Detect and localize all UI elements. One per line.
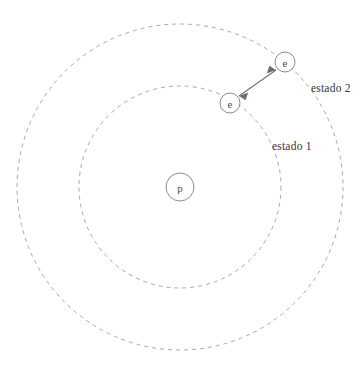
electron-label: e — [283, 57, 288, 69]
electron-outer-orbit: e — [275, 52, 295, 72]
transition-arrow-head-upper — [267, 66, 276, 74]
electron-label: e — [228, 98, 233, 110]
orbit-label-estado-1: estado 1 — [272, 141, 312, 153]
electron-inner-orbit: e — [220, 93, 240, 113]
atom-diagram-figure: p e e estado 2 estado 1 — [0, 0, 363, 366]
transition-arrow-shaft — [239, 70, 276, 96]
electron-transition-arrow — [239, 66, 276, 100]
transition-arrow-head-lower — [239, 93, 248, 101]
nucleus-proton: p — [166, 173, 194, 201]
atom-diagram-canvas: p e e — [0, 0, 363, 366]
orbit-label-estado-2: estado 2 — [311, 83, 351, 95]
proton-label: p — [177, 182, 183, 194]
